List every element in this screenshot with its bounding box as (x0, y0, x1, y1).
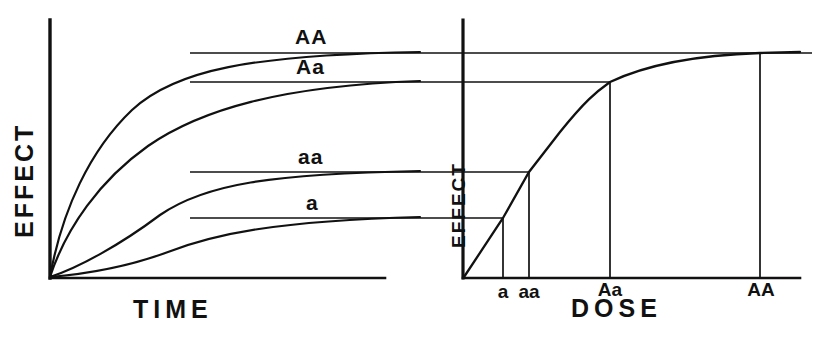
right-panel-drop-lines (503, 53, 760, 278)
right-y-axis-label: EFFECT (448, 162, 470, 248)
dose-tick-label-AA: AA (745, 279, 777, 301)
left-x-axis-label: TIME (133, 295, 213, 324)
right-panel-axes (463, 20, 800, 278)
curve-label-aa: aa (298, 145, 323, 169)
time-curve-AA (50, 52, 420, 277)
dose-tick-label-aa: aa (514, 281, 544, 303)
time-curve-aa (50, 171, 420, 277)
two-panel-genotype-dose-effect-figure: EFFECT TIME AA Aa aa a EFFECT DOSE a aa … (0, 0, 823, 349)
curve-label-a: a (306, 191, 319, 215)
time-curve-Aa (50, 81, 420, 277)
time-curve-a (50, 217, 420, 277)
curve-label-AA: AA (295, 25, 327, 49)
dose-tick-label-Aa: Aa (595, 279, 625, 301)
left-panel-curves (50, 52, 420, 277)
dose-response-curve (464, 52, 800, 277)
figure-canvas (0, 0, 823, 349)
right-panel-effect-projection-lines (420, 53, 812, 218)
curve-label-Aa: Aa (296, 55, 325, 79)
left-y-axis-label: EFFECT (10, 123, 39, 238)
